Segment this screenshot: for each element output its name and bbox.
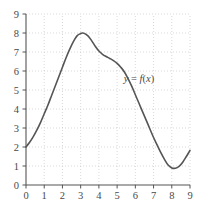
x-tick-label: 5 <box>114 190 119 201</box>
x-tick-label: 2 <box>60 190 65 201</box>
y-tick-label: 1 <box>14 161 19 172</box>
equals-sign: = <box>128 73 139 84</box>
function-curve <box>26 33 190 168</box>
plot-canvas: 01234567890123456789 y = f(x) <box>0 0 201 204</box>
x-tick-label: 8 <box>169 190 174 201</box>
x-tick-label: 4 <box>96 190 102 201</box>
y-tick-label: 5 <box>14 85 19 96</box>
y-tick-label: 2 <box>14 142 19 153</box>
x-tick-label: 0 <box>23 190 28 201</box>
axis-ticks <box>23 14 191 189</box>
x-tick-label: 9 <box>187 190 192 201</box>
figure-graph-of-f: 01234567890123456789 y = f(x) <box>0 0 201 204</box>
y-tick-label: 6 <box>14 66 19 77</box>
x-tick-label: 3 <box>78 190 83 201</box>
x-tick-label: 7 <box>151 190 156 201</box>
y-tick-label: 0 <box>14 180 19 191</box>
x-tick-label: 6 <box>133 190 138 201</box>
y-tick-label: 7 <box>14 47 19 58</box>
x-tick-label: 1 <box>42 190 47 201</box>
y-tick-label: 8 <box>14 28 19 39</box>
y-tick-label: 9 <box>14 9 19 20</box>
y-tick-label: 4 <box>14 104 20 115</box>
curve-equation-label: y = f(x) <box>123 73 155 85</box>
axis-tick-labels: 01234567890123456789 <box>14 9 193 201</box>
y-tick-label: 3 <box>14 123 19 134</box>
